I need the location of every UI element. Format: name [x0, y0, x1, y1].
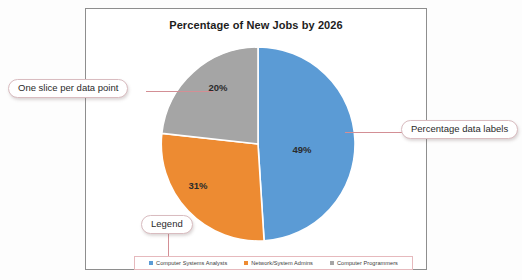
callout-leader-line [345, 132, 402, 133]
pie-label-49: 49% [292, 144, 312, 155]
chart-title: Percentage of New Jobs by 2026 [86, 19, 426, 31]
legend-swatch-icon [330, 261, 334, 265]
callout-one-slice-per-data-point: One slice per data point [8, 79, 128, 98]
chart-frame: Percentage of New Jobs by 2026 49% 31% 2… [85, 8, 427, 270]
legend-item-computer-systems-analysts[interactable]: Computer Systems Analysts [149, 260, 227, 266]
callout-leader-line [168, 233, 169, 256]
legend-item-computer-programmers[interactable]: Computer Programmers [330, 260, 398, 266]
pie-svg: 49% 31% 20% [161, 47, 355, 241]
callout-leader-line [146, 91, 213, 92]
pie-slice-computer-programmers[interactable] [162, 47, 258, 144]
callout-legend: Legend [141, 215, 193, 234]
callout-percentage-data-labels: Percentage data labels [401, 120, 518, 139]
legend-swatch-icon [149, 261, 153, 265]
legend: Computer Systems Analysts Network/System… [134, 256, 413, 270]
legend-swatch-icon [244, 261, 248, 265]
pie-chart: 49% 31% 20% [161, 47, 355, 241]
legend-label: Network/System Admins [251, 260, 313, 266]
legend-item-network-system-admins[interactable]: Network/System Admins [244, 260, 313, 266]
pie-label-31: 31% [188, 180, 208, 191]
legend-label: Computer Programmers [337, 260, 398, 266]
legend-label: Computer Systems Analysts [156, 260, 227, 266]
